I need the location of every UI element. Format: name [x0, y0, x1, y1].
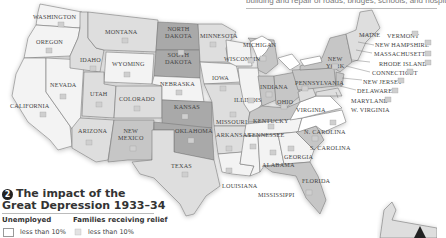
- label-new-jersey: NEW JERSEY: [363, 78, 403, 85]
- legend-unemployed-item: less than 10%: [20, 228, 66, 236]
- label-minnesota: MINNESOTA: [200, 32, 238, 39]
- title-divider: [2, 213, 154, 214]
- label-vermont: VERMONT: [387, 32, 419, 39]
- label-ohio: OHIO: [277, 98, 293, 105]
- label-north-carolina: N. CAROLINA: [304, 128, 346, 135]
- relief-family-icon: [74, 228, 82, 236]
- label-kansas: KANSAS: [174, 103, 200, 110]
- label-maine: MAINE: [359, 31, 380, 38]
- label-arizona: ARIZONA: [78, 127, 107, 134]
- label-kentucky: KENTUCKY: [253, 117, 289, 124]
- label-georgia: GEORGIA: [284, 153, 313, 160]
- label-illinois: ILLINOIS: [234, 96, 262, 103]
- label-utah: UTAH: [90, 90, 108, 97]
- label-west-virginia: W. VIRGINIA: [351, 106, 390, 113]
- label-new-york: NEWYORK: [326, 55, 344, 69]
- state-colorado: [114, 86, 162, 118]
- inset-fragment: [380, 202, 437, 238]
- legend-relief-item: less than 10%: [88, 228, 134, 236]
- map-title: 2The impact of the Great Depression 1933…: [2, 188, 165, 212]
- label-arkansas: ARKANSAS: [216, 131, 251, 138]
- label-indiana: INDIANA: [260, 83, 288, 90]
- label-iowa: IOWA: [212, 74, 229, 81]
- state-florida: [264, 162, 326, 214]
- label-south-carolina: S. CAROLINA: [310, 144, 351, 151]
- label-michigan: MICHIGAN: [243, 41, 276, 48]
- label-colorado: COLORADO: [119, 95, 155, 102]
- legend-swatch-less-than-10: [3, 228, 14, 237]
- label-idaho: IDAHO: [80, 56, 101, 63]
- label-alabama: ALABAMA: [262, 161, 295, 168]
- label-wisconsin: WISCONSIN: [224, 55, 260, 62]
- label-california: CALIFORNIA: [10, 102, 49, 109]
- legend-relief-heading: Families receiving relief: [73, 216, 168, 224]
- label-nebraska: NEBRASKA: [160, 80, 195, 87]
- label-texas: TEXAS: [171, 162, 192, 169]
- label-wyoming: WYOMING: [112, 60, 145, 67]
- state-arizona: [72, 118, 114, 162]
- label-oregon: OREGON: [36, 38, 63, 45]
- label-massachusetts: MASSACHUSETTS: [374, 50, 429, 57]
- label-missouri: MISSOURI: [216, 118, 247, 125]
- label-north-dakota: NORTHDAKOTA: [165, 25, 192, 39]
- legend-unemployed-heading: Unemployed: [2, 216, 51, 224]
- label-pennsylvania: PENNSYLVANIA: [295, 79, 344, 86]
- label-nevada: NEVADA: [50, 81, 77, 88]
- label-rhode-island: RHODE ISLAND: [379, 60, 427, 67]
- label-new-hampshire: NEW HAMPSHIRE: [375, 41, 429, 48]
- label-oklahoma: OKLAHOMA: [175, 127, 213, 134]
- state-maryland-delaware: [316, 88, 342, 96]
- label-washington: WASHINGTON: [33, 13, 76, 20]
- label-delaware: DELAWARE: [357, 87, 392, 94]
- state-wyoming: [104, 52, 154, 84]
- label-new-mexico: NEWMEXICO: [118, 127, 144, 141]
- label-louisiana: LOUISIANA: [222, 182, 257, 189]
- label-connecticut: CONNECTICUT: [372, 69, 418, 76]
- map-number-badge: 2: [2, 189, 13, 200]
- map-title-line2: Great Depression 1933–34: [2, 200, 165, 212]
- label-mississippi: MISSISSIPPI: [258, 191, 295, 198]
- label-tennessee: TENNESSEE: [248, 131, 285, 138]
- label-south-dakota: SOUTHDAKOTA: [165, 51, 192, 65]
- label-florida: FLORIDA: [302, 177, 330, 184]
- label-maryland: MARYLAND: [351, 97, 388, 104]
- label-virginia: VIRGINIA: [296, 106, 326, 113]
- label-montana: MONTANA: [105, 28, 138, 35]
